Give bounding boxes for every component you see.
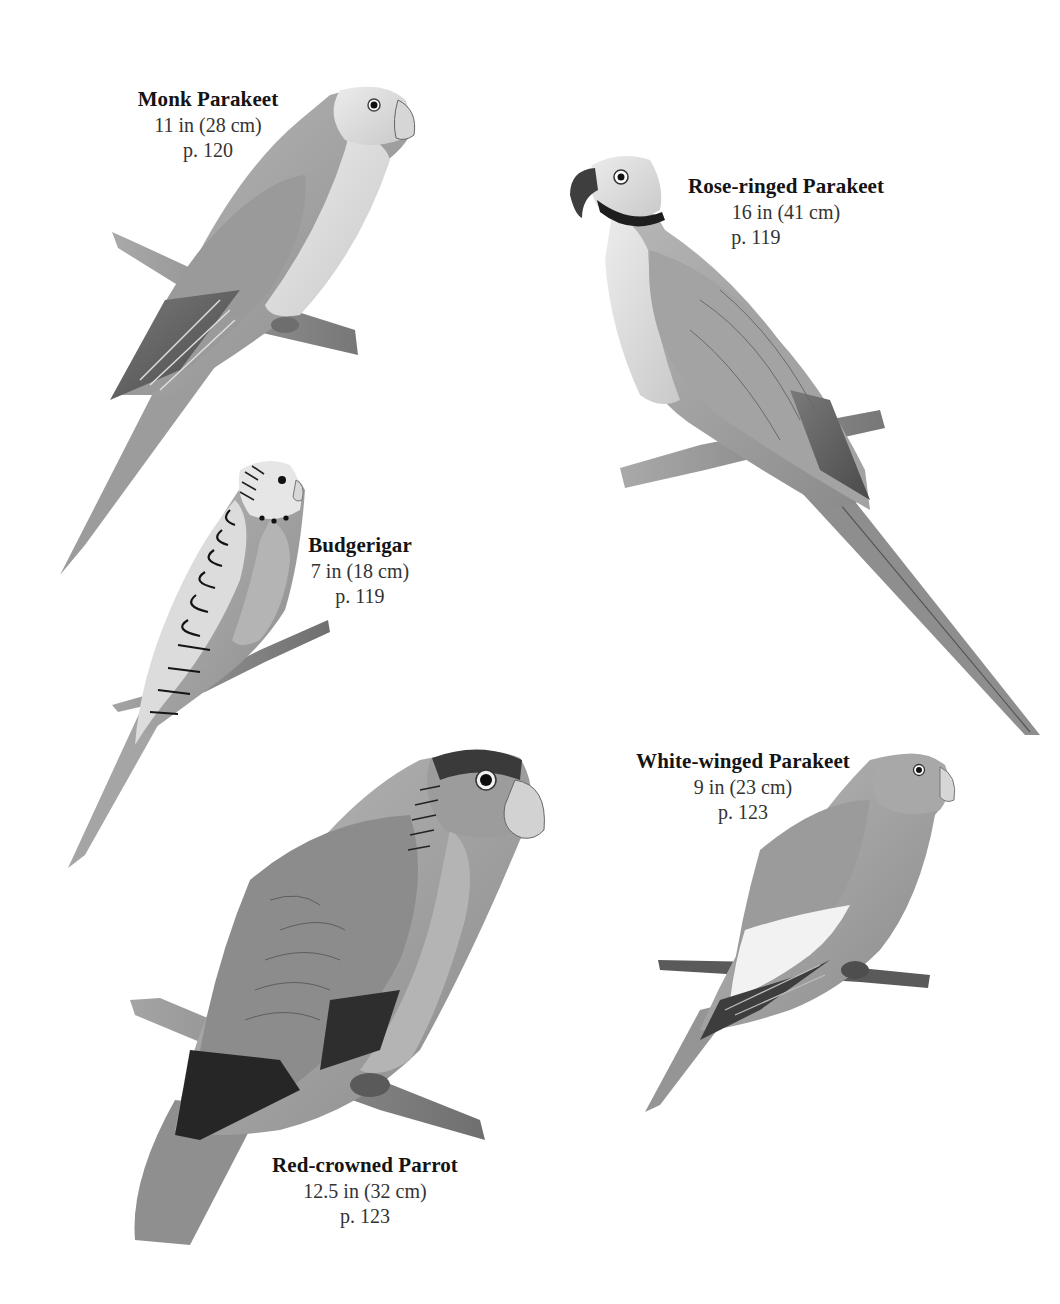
beak xyxy=(394,100,414,139)
tail xyxy=(790,470,1040,735)
species-page-ref: p. 119 xyxy=(285,584,435,610)
species-size: 16 in (41 cm) xyxy=(668,200,904,226)
species-page-ref: p. 119 xyxy=(668,225,844,251)
species-page-ref: p. 123 xyxy=(255,1204,475,1230)
species-label-white-winged-parakeet: White-winged Parakeet 9 in (23 cm) p. 12… xyxy=(618,748,868,826)
head xyxy=(239,461,302,519)
species-name: Rose-ringed Parakeet xyxy=(668,173,904,200)
field-guide-plate: Monk Parakeet 11 in (28 cm) p. 120 Rose-… xyxy=(0,0,1060,1304)
species-name: White-winged Parakeet xyxy=(618,748,868,775)
species-size: 9 in (23 cm) xyxy=(618,775,868,801)
species-size: 7 in (18 cm) xyxy=(285,559,435,585)
budgerigar-illustration xyxy=(68,461,330,868)
beak xyxy=(940,767,955,801)
species-size: 11 in (28 cm) xyxy=(108,113,308,139)
species-label-budgerigar: Budgerigar 7 in (18 cm) p. 119 xyxy=(285,532,435,610)
species-name: Budgerigar xyxy=(285,532,435,559)
species-size: 12.5 in (32 cm) xyxy=(255,1179,475,1205)
species-page-ref: p. 123 xyxy=(618,800,868,826)
head xyxy=(873,754,950,814)
species-name: Red-crowned Parrot xyxy=(255,1152,475,1179)
species-label-rose-ringed-parakeet: Rose-ringed Parakeet 16 in (41 cm) p. 11… xyxy=(668,173,904,251)
species-page-ref: p. 120 xyxy=(108,138,308,164)
species-name: Monk Parakeet xyxy=(108,86,308,113)
species-label-red-crowned-parrot: Red-crowned Parrot 12.5 in (32 cm) p. 12… xyxy=(255,1152,475,1230)
species-label-monk-parakeet: Monk Parakeet 11 in (28 cm) p. 120 xyxy=(108,86,308,164)
